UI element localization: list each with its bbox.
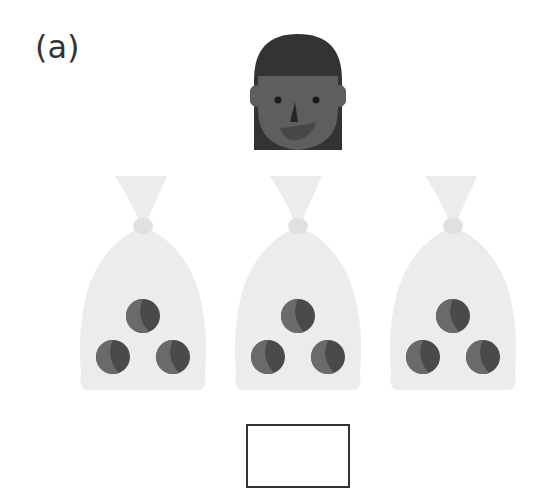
answer-box[interactable]: [246, 424, 350, 488]
bag-1: [75, 172, 211, 396]
bag-2: [230, 172, 366, 396]
girl-face-icon: [250, 30, 346, 152]
bag-3: [385, 172, 521, 396]
question-label: (a): [35, 28, 80, 66]
